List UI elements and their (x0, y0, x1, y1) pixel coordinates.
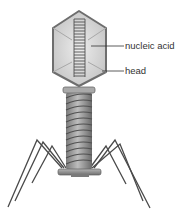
label-head: head (125, 65, 146, 76)
bacteriophage-diagram: nucleic acid head (0, 0, 179, 222)
collar (63, 87, 95, 93)
tail-sheath (66, 92, 92, 170)
phage-illustration: nucleic acid head (0, 0, 179, 222)
label-nucleic-acid: nucleic acid (125, 40, 175, 51)
